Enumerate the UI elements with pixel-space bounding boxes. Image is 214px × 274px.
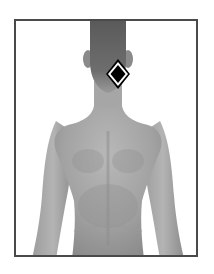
figure-frame (14, 19, 198, 257)
diamond-marker-icon (106, 59, 130, 89)
location-marker (16, 21, 198, 257)
